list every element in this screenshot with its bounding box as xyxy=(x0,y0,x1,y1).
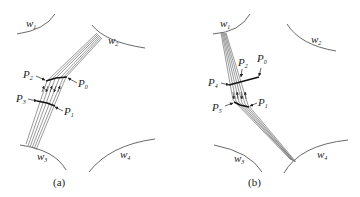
region-w2-arc xyxy=(92,25,145,48)
line-bundle-lower xyxy=(233,100,296,162)
label-P2: P2 xyxy=(237,56,248,69)
label-w4: w4 xyxy=(120,148,130,161)
label-w2: w2 xyxy=(311,33,321,46)
label-P2: P2 xyxy=(22,68,33,81)
caption-a: (a) xyxy=(53,176,66,189)
panel-a: w1 w2 w3 w4 P2 P0 P3 P1 (a) xyxy=(15,14,155,189)
line-bundle-lower xyxy=(26,77,66,150)
region-w1-arc xyxy=(213,14,250,34)
caption-b: (b) xyxy=(248,176,261,189)
label-P1: P1 xyxy=(63,105,74,118)
label-w2: w2 xyxy=(108,34,118,47)
label-P5: P5 xyxy=(211,101,222,114)
figure: w1 w2 w3 w4 P2 P0 P3 P1 (a) xyxy=(0,0,360,197)
label-P1: P1 xyxy=(257,96,268,109)
label-P4: P4 xyxy=(207,76,218,89)
line-bundle-upper xyxy=(47,33,102,81)
region-w4-arc xyxy=(284,140,348,173)
label-P0: P0 xyxy=(256,52,267,65)
flow-arrows xyxy=(42,86,60,92)
line-bundle-upper xyxy=(221,33,248,105)
label-w4: w4 xyxy=(317,148,327,161)
label-w3: w3 xyxy=(234,152,244,165)
label-P3: P3 xyxy=(15,92,26,105)
label-w1: w1 xyxy=(26,17,36,30)
label-w1: w1 xyxy=(220,17,230,30)
label-P0: P0 xyxy=(77,77,88,90)
panel-b: w1 w2 w3 w4 P2 P0 P4 P5 P1 (b) xyxy=(207,14,348,189)
